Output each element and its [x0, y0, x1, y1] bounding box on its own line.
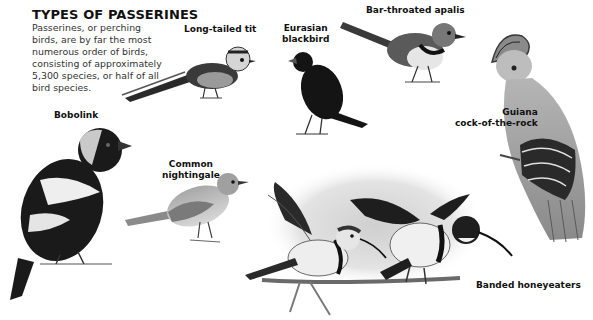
label-guiana-cock-of-the-rock: Guiana cock-of-the-rock — [455, 107, 538, 129]
guiana-cock-of-the-rock-illustration — [492, 35, 585, 242]
bird-illustrations — [0, 0, 593, 320]
common-nightingale-illustration — [125, 173, 249, 242]
label-line: cock-of-the-rock — [455, 118, 538, 129]
eurasian-blackbird-illustration — [288, 52, 368, 134]
banded-honeyeaters-illustration — [245, 163, 512, 315]
label-eurasian-blackbird: Eurasian blackbird — [282, 23, 329, 45]
label-banded-honeyeaters: Banded honeyeaters — [476, 280, 581, 291]
bobolink-illustration — [8, 128, 132, 300]
label-long-tailed-tit: Long-tailed tit — [184, 24, 256, 35]
bar-throated-apalis-illustration — [340, 22, 466, 82]
label-line: Guiana — [455, 107, 538, 118]
label-bobolink: Bobolink — [54, 110, 98, 121]
label-line: Eurasian — [282, 23, 329, 34]
label-line: Common — [162, 159, 220, 170]
label-line: blackbird — [282, 34, 329, 45]
label-bar-throated-apalis: Bar-throated apalis — [366, 5, 465, 16]
label-common-nightingale: Common nightingale — [162, 159, 220, 181]
label-line: nightingale — [162, 170, 220, 181]
long-tailed-tit-illustration — [122, 47, 256, 102]
